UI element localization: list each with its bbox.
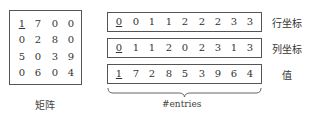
matrix-cell: 0	[31, 49, 45, 65]
array-cell: 5	[178, 65, 192, 83]
array-cell: 2	[178, 13, 192, 31]
array-cell: 4	[243, 65, 257, 83]
matrix-cell: 6	[31, 65, 45, 81]
matrix-cell: 0	[48, 16, 62, 32]
matrix-row: 1 7 0 0	[10, 16, 81, 32]
array-cell: 0	[129, 13, 143, 31]
array-cell: 3	[195, 65, 209, 83]
row-index-array: 0 0 1 1 2 2 2 3 3	[107, 12, 262, 32]
array-cell: 2	[145, 65, 159, 83]
array-cell: 1	[112, 65, 126, 83]
matrix-cell: 0	[48, 65, 62, 81]
array-cell: 0	[178, 39, 192, 57]
row-index-label: 行坐标	[270, 15, 304, 30]
array-cell: 1	[227, 39, 241, 57]
matrix-cell: 7	[31, 16, 45, 32]
array-cell: 0	[112, 13, 126, 31]
values-label: 值	[270, 67, 304, 82]
array-cell: 1	[145, 13, 159, 31]
matrix-cell: 2	[31, 32, 45, 48]
entries-label: #entries	[162, 99, 201, 109]
matrix-cell: 8	[48, 32, 62, 48]
dense-matrix: 1 7 0 0 0 2 8 0 5 0 3 9 0 6 0 4	[9, 10, 82, 85]
array-cell: 1	[129, 39, 143, 57]
matrix-row: 5 0 3 9	[10, 49, 81, 65]
matrix-cell: 5	[15, 49, 29, 65]
values-array: 1 7 2 8 5 3 9 6 4	[107, 64, 262, 84]
array-cell: 3	[227, 13, 241, 31]
matrix-cell: 0	[15, 32, 29, 48]
array-cell: 9	[211, 65, 225, 83]
array-cell: 8	[162, 65, 176, 83]
matrix-cell: 3	[48, 49, 62, 65]
brace-icon	[107, 88, 262, 98]
array-cell: 7	[129, 65, 143, 83]
matrix-cell: 0	[64, 32, 78, 48]
matrix-cell: 0	[15, 65, 29, 81]
array-cell: 3	[211, 39, 225, 57]
col-index-array: 0 1 1 2 0 2 3 1 3	[107, 38, 262, 58]
matrix-row: 0 2 8 0	[10, 32, 81, 48]
array-cell: 2	[211, 13, 225, 31]
matrix-cell: 1	[15, 16, 29, 32]
matrix-cell: 4	[64, 65, 78, 81]
matrix-cell: 0	[64, 16, 78, 32]
array-cell: 2	[195, 13, 209, 31]
array-cell: 2	[162, 39, 176, 57]
array-cell: 3	[243, 39, 257, 57]
array-cell: 0	[112, 39, 126, 57]
matrix-caption: 矩阵	[35, 97, 55, 112]
array-cell: 6	[227, 65, 241, 83]
array-cell: 1	[162, 13, 176, 31]
matrix-cell: 9	[64, 49, 78, 65]
col-index-label: 列坐标	[270, 41, 304, 56]
array-cell: 3	[243, 13, 257, 31]
array-cell: 2	[195, 39, 209, 57]
array-cell: 1	[145, 39, 159, 57]
matrix-row: 0 6 0 4	[10, 65, 81, 81]
